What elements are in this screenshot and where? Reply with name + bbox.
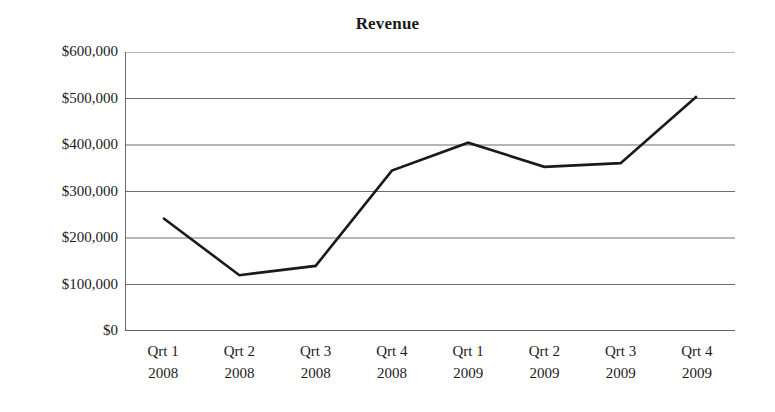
- x-axis-tick-label-quarter: Qrt 1: [430, 340, 506, 362]
- x-axis-tick-label: Qrt 22009: [506, 340, 582, 402]
- x-axis-tick-label-quarter: Qrt 2: [201, 340, 277, 362]
- x-axis-tick-label-year: 2009: [506, 362, 582, 384]
- y-axis-tick-label: $100,000: [6, 277, 118, 292]
- plot-svg: [125, 52, 735, 331]
- x-axis-tick-label-quarter: Qrt 1: [125, 340, 201, 362]
- x-axis-tick-label-quarter: Qrt 4: [659, 340, 735, 362]
- x-axis-tick-label-year: 2008: [354, 362, 430, 384]
- x-axis-tick-label: Qrt 42009: [659, 340, 735, 402]
- x-axis-tick-label-year: 2009: [583, 362, 659, 384]
- gridlines-group: [125, 52, 735, 331]
- y-axis-tick-label: $600,000: [6, 44, 118, 59]
- x-axis-tick-label: Qrt 32009: [583, 340, 659, 402]
- x-axis-tick-label: Qrt 12009: [430, 340, 506, 402]
- x-axis-tick-label-quarter: Qrt 3: [278, 340, 354, 362]
- x-axis-label-group: Qrt 12008Qrt 22008Qrt 32008Qrt 42008Qrt …: [125, 340, 735, 402]
- y-axis-tick-label: $400,000: [6, 137, 118, 152]
- y-axis-tick-label: $0: [6, 323, 118, 338]
- x-axis-tick-label-year: 2008: [125, 362, 201, 384]
- y-axis-tick-label: $500,000: [6, 91, 118, 106]
- y-axis-tick-label: $300,000: [6, 184, 118, 199]
- x-axis-tick-label: Qrt 32008: [278, 340, 354, 402]
- data-series-group: [163, 96, 697, 275]
- x-axis-tick-label: Qrt 12008: [125, 340, 201, 402]
- y-axis-label-group: $600,000$500,000$400,000$300,000$200,000…: [0, 0, 118, 412]
- x-axis-tick-label-quarter: Qrt 2: [506, 340, 582, 362]
- y-axis-tick-label: $200,000: [6, 230, 118, 245]
- plot-area: [125, 52, 735, 331]
- x-axis-tick-label-year: 2009: [659, 362, 735, 384]
- x-axis-tick-label: Qrt 22008: [201, 340, 277, 402]
- x-axis-tick-label-quarter: Qrt 3: [583, 340, 659, 362]
- x-axis-tick-label-quarter: Qrt 4: [354, 340, 430, 362]
- x-axis-tick-label-year: 2008: [278, 362, 354, 384]
- x-axis-tick-label-year: 2008: [201, 362, 277, 384]
- series-line-revenue: [163, 96, 697, 275]
- x-axis-tick-label: Qrt 42008: [354, 340, 430, 402]
- revenue-line-chart: Revenue $600,000$500,000$400,000$300,000…: [0, 0, 775, 412]
- x-axis-tick-label-year: 2009: [430, 362, 506, 384]
